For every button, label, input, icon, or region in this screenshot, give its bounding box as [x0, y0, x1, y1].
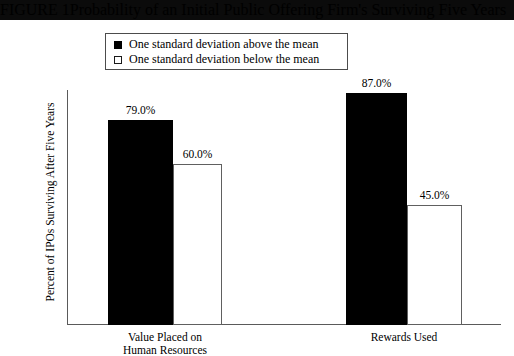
x-category-label-2-line1: Rewards Used — [334, 331, 474, 344]
bar-value-group1-below-mean: 60.0% — [173, 148, 222, 160]
x-category-label-1-line1: Value Placed on — [95, 331, 235, 344]
x-category-label-1-line2: Human Resources — [95, 344, 235, 356]
bar-group2-above-mean — [346, 93, 407, 325]
bar-group1-below-mean — [173, 164, 222, 325]
bar-group1-above-mean — [108, 120, 173, 325]
y-axis-line — [67, 90, 68, 325]
bar-value-group2-below-mean: 45.0% — [407, 189, 462, 201]
bar-value-group2-above-mean: 87.0% — [346, 77, 407, 89]
bar-group2-below-mean — [407, 205, 462, 325]
y-axis-label: Percent of IPOs Surviving After Five Yea… — [44, 87, 56, 317]
chart-plot-area: Percent of IPOs Surviving After Five Yea… — [0, 0, 514, 356]
bar-value-group1-above-mean: 79.0% — [108, 104, 173, 116]
